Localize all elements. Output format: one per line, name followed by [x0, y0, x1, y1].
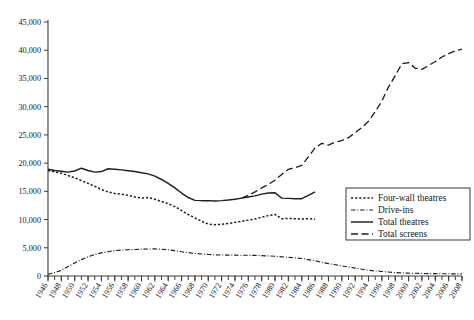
- x-tick-label: 1976: [234, 281, 250, 300]
- x-tick-label: 1996: [367, 281, 383, 300]
- x-tick-label: 1952: [73, 281, 89, 300]
- x-tick-label: 1978: [247, 281, 263, 300]
- y-tick-label: 45,000: [18, 18, 41, 27]
- y-tick-label: 40,000: [18, 46, 41, 55]
- y-tick-label: 20,000: [18, 159, 41, 168]
- chart-container: 05,00010,00015,00020,00025,00030,00035,0…: [0, 0, 474, 320]
- x-tick-label: 1958: [114, 281, 130, 300]
- x-tick-label: 1970: [194, 281, 210, 300]
- x-tick-label: 1980: [260, 281, 276, 300]
- x-tick-label: 1960: [127, 281, 143, 300]
- y-axis: 05,00010,00015,00020,00025,00030,00035,0…: [18, 18, 48, 281]
- y-tick-label: 15,000: [18, 187, 41, 196]
- x-tick-label: 2002: [407, 281, 423, 300]
- x-tick-label: 2000: [394, 281, 410, 300]
- x-tick-label: 1982: [274, 281, 290, 300]
- series-line: [242, 49, 462, 198]
- x-tick-label: 1966: [167, 281, 183, 300]
- legend-label: Drive-ins: [378, 205, 414, 215]
- line-chart: 05,00010,00015,00020,00025,00030,00035,0…: [0, 0, 474, 320]
- x-tick-label: 1950: [60, 281, 76, 300]
- x-tick-label: 2008: [447, 281, 463, 300]
- x-tick-label: 1986: [300, 281, 316, 300]
- x-axis: 1946194819501952195419561958196019621964…: [33, 276, 463, 300]
- x-tick-label: 2006: [434, 281, 450, 300]
- legend-label: Four-wall theatres: [378, 193, 447, 203]
- x-tick-label: 1988: [314, 281, 330, 300]
- y-tick-label: 35,000: [18, 74, 41, 83]
- x-tick-label: 1994: [354, 281, 370, 300]
- x-tick-label: 1962: [140, 281, 156, 300]
- series-line: [48, 170, 315, 224]
- x-tick-label: 1964: [154, 281, 170, 300]
- x-tick-label: 1954: [87, 281, 103, 300]
- series-line: [48, 249, 462, 274]
- y-tick-label: 10,000: [18, 216, 41, 225]
- legend-label: Total theatres: [378, 217, 429, 227]
- y-tick-label: 30,000: [18, 103, 41, 112]
- x-tick-label: 1998: [381, 281, 397, 300]
- legend-label: Total screens: [378, 229, 427, 239]
- x-tick-label: 1972: [207, 281, 223, 300]
- x-tick-label: 1992: [341, 281, 357, 300]
- x-tick-label: 1974: [220, 281, 236, 300]
- x-tick-label: 1990: [327, 281, 343, 300]
- y-tick-label: 5,000: [23, 244, 41, 253]
- y-tick-label: 0: [37, 272, 41, 281]
- x-tick-label: 2004: [421, 281, 437, 300]
- x-tick-label: 1946: [33, 281, 49, 300]
- series-line: [48, 168, 315, 201]
- x-tick-label: 1956: [100, 281, 116, 300]
- y-tick-label: 25,000: [18, 131, 41, 140]
- x-tick-label: 1948: [47, 281, 63, 300]
- x-tick-label: 1968: [180, 281, 196, 300]
- x-tick-label: 1984: [287, 281, 303, 300]
- chart-legend: Four-wall theatresDrive-insTotal theatre…: [346, 188, 470, 240]
